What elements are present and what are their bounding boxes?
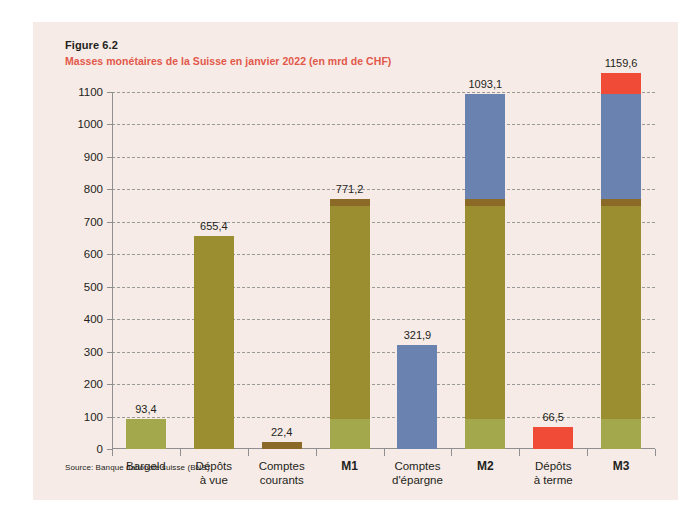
bar-value-label: 771,2 — [336, 183, 364, 195]
figure-number: Figure 6.2 — [65, 38, 391, 52]
bar-segment[interactable] — [194, 236, 234, 449]
category-axis: BargeldDépôtsà vueComptescourantsM1Compt… — [112, 449, 655, 499]
y-axis-tick-label: 1000 — [77, 118, 103, 130]
bar-segment[interactable] — [262, 442, 302, 449]
bar-value-label: 22,4 — [271, 426, 292, 438]
bars-layer: 93,4655,422,4771,2321,91093,166,51159,6 — [112, 92, 655, 449]
y-axis-tick-label: 500 — [84, 281, 103, 293]
category-label-line: Dépôts — [519, 459, 587, 473]
y-axis-tick-label: 800 — [84, 183, 103, 195]
category-separator — [384, 449, 385, 456]
category-label: M3 — [587, 459, 655, 473]
y-axis-tick-label: 200 — [84, 378, 103, 390]
bar-segment[interactable] — [465, 419, 505, 449]
bar-stack[interactable] — [533, 427, 573, 449]
bar-stack[interactable] — [601, 73, 641, 449]
bar-stack[interactable] — [262, 442, 302, 449]
bar-value-label: 66,5 — [542, 411, 563, 423]
bar-stack[interactable] — [465, 94, 505, 449]
bar-segment[interactable] — [601, 199, 641, 206]
bar-group[interactable]: 1093,1 — [465, 92, 505, 449]
bar-value-label: 655,4 — [200, 220, 228, 232]
bar-stack[interactable] — [126, 419, 166, 449]
category-separator — [112, 449, 113, 456]
bar-stack[interactable] — [194, 236, 234, 449]
bar-segment[interactable] — [330, 206, 370, 419]
category-label-line: M1 — [316, 459, 384, 473]
bar-value-label: 1159,6 — [605, 57, 638, 69]
y-axis-tick-label: 300 — [84, 346, 103, 358]
category-label-line: Comptes — [248, 459, 316, 473]
bar-segment[interactable] — [465, 206, 505, 419]
category-label-line: à terme — [519, 473, 587, 487]
category-label-line: M2 — [451, 459, 519, 473]
bar-segment[interactable] — [330, 199, 370, 206]
y-axis-tick-label: 1100 — [78, 86, 103, 98]
figure-panel: Figure 6.2 Masses monétaires de la Suiss… — [33, 22, 678, 500]
bar-value-label: 1093,1 — [468, 78, 502, 90]
category-label: Comptescourants — [248, 459, 316, 487]
category-label: Dépôtsà terme — [519, 459, 587, 487]
bar-group[interactable]: 655,4 — [194, 92, 234, 449]
bar-segment[interactable] — [601, 419, 641, 449]
bar-segment[interactable] — [601, 73, 641, 95]
category-separator — [248, 449, 249, 456]
category-label-line: courants — [248, 473, 316, 487]
bar-segment[interactable] — [601, 206, 641, 419]
bar-segment[interactable] — [465, 94, 505, 198]
bar-value-label: 93,4 — [135, 403, 156, 415]
plot-area: 010020030040050060070080090010001100 93,… — [112, 92, 655, 449]
bar-group[interactable]: 93,4 — [126, 92, 166, 449]
category-separator — [587, 449, 588, 456]
category-label: Comptesd'épargne — [384, 459, 452, 487]
bar-segment[interactable] — [330, 419, 370, 449]
bar-segment[interactable] — [126, 419, 166, 449]
category-label-line: d'épargne — [384, 473, 452, 487]
category-separator — [655, 449, 656, 456]
category-separator — [451, 449, 452, 456]
category-separator — [316, 449, 317, 456]
bar-segment[interactable] — [397, 345, 437, 449]
y-axis-tick-label: 100 — [84, 411, 103, 423]
bar-segment[interactable] — [601, 94, 641, 198]
category-label: M2 — [451, 459, 519, 473]
category-label-line: Comptes — [384, 459, 452, 473]
bar-segment[interactable] — [465, 199, 505, 206]
category-label: M1 — [316, 459, 384, 473]
bar-segment[interactable] — [533, 427, 573, 449]
y-axis-tick-label: 600 — [84, 248, 103, 260]
figure-title: Masses monétaires de la Suisse en janvie… — [65, 54, 391, 69]
figure-header: Figure 6.2 Masses monétaires de la Suiss… — [65, 38, 391, 69]
bar-group[interactable]: 66,5 — [533, 92, 573, 449]
y-axis-tick-label: 0 — [97, 443, 103, 455]
y-axis-tick-label: 400 — [84, 313, 103, 325]
category-separator — [180, 449, 181, 456]
figure-source: Source: Banque nationale suisse (BNS) — [65, 463, 210, 472]
category-separator — [519, 449, 520, 456]
y-axis-tick-label: 700 — [84, 216, 103, 228]
bar-group[interactable]: 771,2 — [330, 92, 370, 449]
bar-stack[interactable] — [397, 345, 437, 449]
bar-stack[interactable] — [330, 199, 370, 449]
bar-group[interactable]: 22,4 — [262, 92, 302, 449]
bar-group[interactable]: 321,9 — [397, 92, 437, 449]
bar-group[interactable]: 1159,6 — [601, 92, 641, 449]
category-label-line: M3 — [587, 459, 655, 473]
category-label-line: à vue — [180, 473, 248, 487]
bar-value-label: 321,9 — [404, 329, 432, 341]
y-axis-tick-label: 900 — [84, 151, 103, 163]
